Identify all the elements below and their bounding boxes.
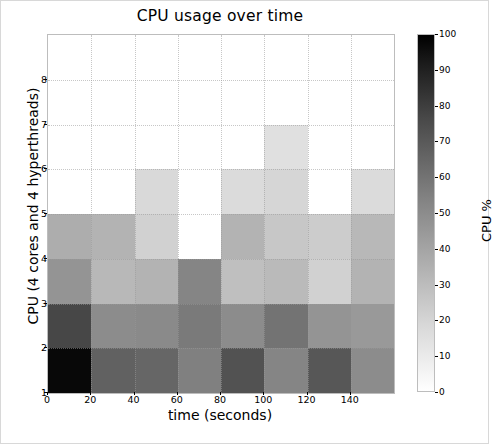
heat-cell	[178, 259, 221, 304]
heat-cell	[308, 259, 351, 304]
heat-cell	[351, 125, 394, 170]
heat-cell	[221, 259, 264, 304]
heat-cell	[351, 348, 394, 393]
heat-cell	[135, 35, 178, 80]
y-tick-label: 3	[41, 297, 47, 308]
heat-cell	[135, 169, 178, 214]
heat-cell	[264, 214, 307, 259]
colorbar-tick-label: 80	[439, 101, 450, 111]
heat-cell	[178, 80, 221, 125]
heat-cell	[178, 125, 221, 170]
y-tick-label: 2	[41, 342, 47, 353]
heat-cell	[264, 259, 307, 304]
y-tick-label: 7	[41, 118, 47, 129]
heat-cell	[178, 169, 221, 214]
heat-cell	[91, 125, 134, 170]
heat-cell	[135, 125, 178, 170]
colorbar-tick-label: 20	[439, 315, 450, 325]
heat-cell	[178, 214, 221, 259]
heat-cell	[351, 35, 394, 80]
heat-cell	[48, 259, 91, 304]
colorbar-tick-label: 100	[439, 29, 456, 39]
heat-cell	[221, 169, 264, 214]
heat-cell	[221, 348, 264, 393]
heat-cell	[308, 35, 351, 80]
heat-cell	[308, 304, 351, 349]
heat-cell	[221, 214, 264, 259]
heat-cell	[351, 80, 394, 125]
heat-cell	[178, 304, 221, 349]
chart-title: CPU usage over time	[47, 7, 393, 25]
x-tick-label: 100	[254, 394, 272, 405]
heat-cell	[221, 80, 264, 125]
heat-cell	[48, 304, 91, 349]
colorbar-tick-label: 50	[439, 208, 450, 218]
heat-cell	[351, 304, 394, 349]
heat-cell	[91, 80, 134, 125]
heat-cell	[135, 80, 178, 125]
heat-cell	[221, 125, 264, 170]
y-tick-label: 5	[41, 208, 47, 219]
x-tick-label: 20	[84, 394, 96, 405]
y-tick-label: 6	[41, 163, 47, 174]
colorbar-tick-mark	[435, 141, 438, 142]
heat-cell	[351, 169, 394, 214]
heat-cell	[48, 35, 91, 80]
x-tick-label: 60	[171, 394, 183, 405]
heat-cell	[91, 348, 134, 393]
colorbar-tick-mark	[435, 356, 438, 357]
heat-cell	[135, 259, 178, 304]
colorbar-tick-label: 40	[439, 244, 450, 254]
colorbar-tick-mark	[435, 320, 438, 321]
heat-cell	[91, 169, 134, 214]
heatmap-grid	[48, 35, 394, 393]
x-tick-label: 140	[341, 394, 359, 405]
colorbar-label: CPU %	[479, 121, 494, 321]
heat-cell	[48, 348, 91, 393]
heat-cell	[91, 304, 134, 349]
colorbar-tick-label: 70	[439, 136, 450, 146]
heat-cell	[351, 214, 394, 259]
heat-cell	[91, 259, 134, 304]
heat-cell	[264, 348, 307, 393]
heat-cell	[264, 35, 307, 80]
colorbar-tick-mark	[435, 34, 438, 35]
heat-cell	[135, 214, 178, 259]
y-tick-label: 8	[41, 73, 47, 84]
heat-cell	[91, 35, 134, 80]
colorbar	[417, 34, 435, 392]
y-tick-label: 1	[41, 387, 47, 398]
heat-cell	[264, 125, 307, 170]
heat-cell	[48, 80, 91, 125]
colorbar-tick-label: 10	[439, 351, 450, 361]
colorbar-tick-mark	[435, 106, 438, 107]
x-tick-label: 80	[214, 394, 226, 405]
colorbar-tick-label: 90	[439, 65, 450, 75]
x-tick-label: 40	[127, 394, 139, 405]
heat-cell	[178, 35, 221, 80]
heatmap-plot-area	[47, 34, 395, 394]
heat-cell	[48, 169, 91, 214]
colorbar-tick-label: 30	[439, 280, 450, 290]
colorbar-tick-mark	[435, 392, 438, 393]
heat-cell	[221, 304, 264, 349]
heat-cell	[178, 348, 221, 393]
heat-cell	[308, 125, 351, 170]
colorbar-gradient	[417, 34, 435, 392]
colorbar-tick-mark	[435, 285, 438, 286]
y-axis-label: CPU (4 cores and 4 hyperthreads)	[25, 26, 41, 386]
heat-cell	[308, 169, 351, 214]
heat-cell	[264, 169, 307, 214]
colorbar-tick-mark	[435, 177, 438, 178]
colorbar-tick-mark	[435, 70, 438, 71]
heat-cell	[135, 348, 178, 393]
y-tick-label: 4	[41, 252, 47, 263]
colorbar-tick-label: 0	[439, 387, 445, 397]
heat-cell	[48, 125, 91, 170]
colorbar-tick-mark	[435, 249, 438, 250]
x-tick-label: 120	[297, 394, 315, 405]
heat-cell	[221, 35, 264, 80]
colorbar-tick-mark	[435, 213, 438, 214]
colorbar-tick-label: 60	[439, 172, 450, 182]
